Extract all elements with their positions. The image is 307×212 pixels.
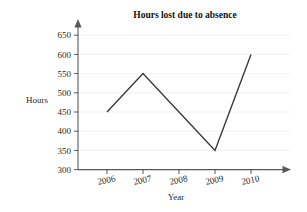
y-tick-label-300: 300	[58, 165, 72, 175]
y-tick-label-600: 600	[58, 50, 72, 60]
chart-canvas: 300 350 400 450 500 550 600 650 2006 200…	[0, 0, 307, 212]
y-tick-label-450: 450	[58, 107, 72, 117]
x-tick-labels: 2006 2007 2008 2009 2010	[97, 173, 261, 187]
x-tick-label-2008: 2008	[169, 173, 189, 187]
line-chart-figure: 300 350 400 450 500 550 600 650 2006 200…	[0, 0, 307, 212]
x-tick-label-2007: 2007	[133, 173, 153, 187]
x-tick-label-2006: 2006	[97, 173, 117, 187]
x-tick-label-2010: 2010	[241, 173, 261, 187]
y-tick-label-400: 400	[58, 126, 72, 136]
y-tick-marks	[74, 35, 78, 169]
x-axis-title: Year	[168, 192, 185, 202]
chart-title: Hours lost due to absence	[133, 10, 236, 20]
y-tick-labels: 300 350 400 450 500 550 600 650	[58, 30, 72, 174]
y-tick-label-550: 550	[58, 69, 72, 79]
y-tick-label-500: 500	[58, 88, 72, 98]
x-tick-marks	[107, 170, 251, 174]
y-axis-title: Hours	[26, 95, 48, 105]
x-tick-label-2009: 2009	[205, 173, 225, 187]
y-tick-label-350: 350	[58, 146, 72, 156]
plot-background	[78, 22, 290, 170]
y-tick-label-650: 650	[58, 30, 72, 40]
